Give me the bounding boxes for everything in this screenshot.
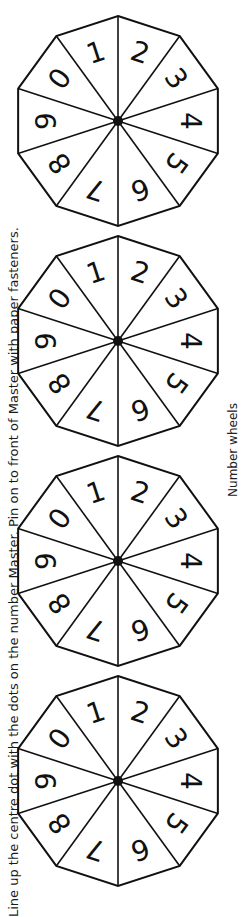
wheel-digit-4: 4 [174, 552, 207, 570]
centre-dot [113, 556, 123, 566]
centre-dot [113, 776, 123, 786]
wheel-digit-4: 4 [174, 332, 207, 350]
wheel-digit-9: 9 [30, 772, 63, 790]
number-wheel-4: 2345678901 [18, 676, 218, 886]
wheel-digit-9: 9 [30, 552, 63, 570]
centre-dot [113, 116, 123, 126]
number-wheel-3: 2345678901 [18, 456, 218, 666]
wheel-digit-4: 4 [174, 112, 207, 130]
number-wheels-sheet: 2345678901 2345678901 2345678901 2345678… [0, 0, 246, 917]
centre-dot [113, 336, 123, 346]
number-wheel-1: 2345678901 [18, 16, 218, 226]
wheel-digit-4: 4 [174, 772, 207, 790]
wheel-digit-9: 9 [30, 332, 63, 350]
wheel-digit-9: 9 [30, 112, 63, 130]
number-wheel-2: 2345678901 [18, 236, 218, 446]
